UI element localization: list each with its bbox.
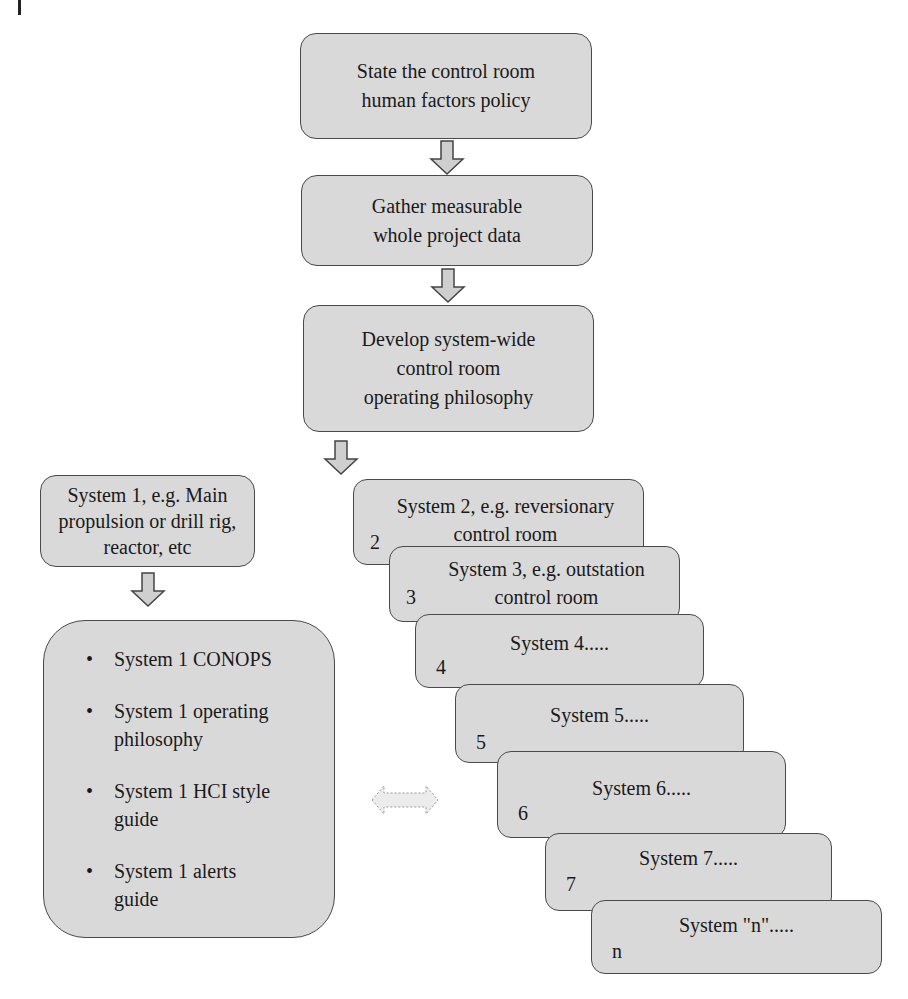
system-card-label: System 3, e.g. outstation control room — [390, 555, 679, 611]
system-card-number: 3 — [406, 583, 416, 611]
detail-item-conops: •System 1 CONOPS — [74, 645, 272, 673]
system-card-6: System 6..... 6 — [497, 751, 786, 838]
system-card-label: System 2, e.g. reversionary control room — [354, 492, 643, 548]
data-text: Gather measurable whole project data — [372, 192, 522, 250]
philosophy-box: Develop system-wide control room operati… — [303, 305, 594, 432]
policy-text: State the control room human factors pol… — [357, 57, 535, 115]
system-card-n: System "n"..... n — [591, 900, 882, 974]
system-card-label: System 4..... — [416, 629, 703, 657]
bidirectional-arrow-icon — [370, 782, 440, 818]
bullet-icon: • — [86, 777, 93, 805]
philosophy-text: Develop system-wide control room operati… — [362, 325, 536, 412]
bullet-icon: • — [86, 645, 93, 673]
policy-box: State the control room human factors pol… — [300, 33, 592, 139]
system1-box: System 1, e.g. Main propulsion or drill … — [40, 475, 255, 567]
detail-item-alerts-guide: •System 1 alerts guide — [74, 857, 272, 913]
system1-detail-box: •System 1 CONOPS •System 1 operating phi… — [43, 620, 335, 938]
bullet-icon: • — [86, 857, 93, 885]
system-card-number: 2 — [370, 528, 380, 556]
system-card-3: System 3, e.g. outstation control room 3 — [389, 546, 680, 622]
system-card-label: System 6..... — [498, 774, 785, 802]
arrow-down-icon — [430, 268, 466, 304]
detail-item-hci-style-guide: •System 1 HCI style guide — [74, 777, 272, 833]
system1-title: System 1, e.g. Main propulsion or drill … — [59, 482, 237, 560]
system-card-4: System 4..... 4 — [415, 614, 704, 688]
arrow-down-icon — [323, 440, 359, 476]
page-margin-marker — [18, 0, 21, 15]
system-card-number: 7 — [566, 870, 576, 898]
system-card-number: 4 — [436, 653, 446, 681]
data-box: Gather measurable whole project data — [301, 175, 593, 266]
system-card-label: System 7..... — [546, 844, 831, 872]
system-card-label: System "n"..... — [592, 911, 881, 939]
system-card-number: 6 — [518, 799, 528, 827]
system-card-number: n — [612, 937, 622, 965]
arrow-down-icon — [429, 140, 465, 176]
bullet-icon: • — [86, 697, 93, 725]
detail-item-operating-philosophy: •System 1 operating philosophy — [74, 697, 272, 753]
system-card-label: System 5..... — [456, 701, 743, 729]
system-card-number: 5 — [476, 728, 486, 756]
system1-detail-list: •System 1 CONOPS •System 1 operating phi… — [74, 645, 272, 913]
arrow-down-icon — [130, 572, 166, 608]
